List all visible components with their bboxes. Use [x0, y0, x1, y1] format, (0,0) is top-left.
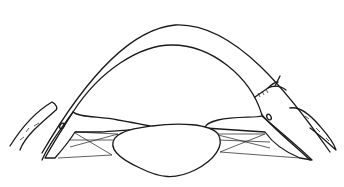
- sutures: [255, 76, 286, 97]
- lens: [113, 124, 220, 177]
- cornea-inner: [73, 45, 262, 115]
- eye-cross-section-diagram: [0, 0, 344, 187]
- conjunctiva-left: [10, 102, 57, 150]
- iris-right: [205, 116, 312, 160]
- zonules-left: [58, 132, 118, 158]
